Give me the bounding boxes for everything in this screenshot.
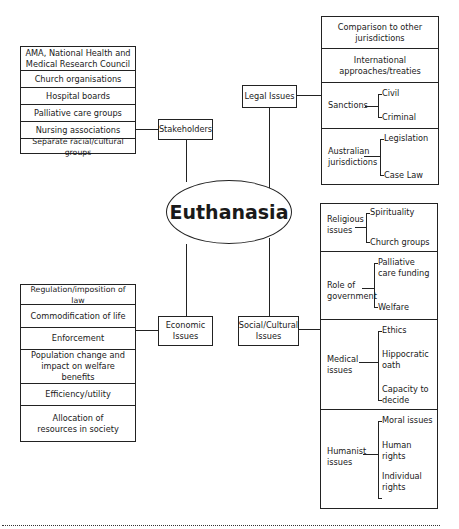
connector [299, 329, 321, 330]
legal-item: International approaches/treaties [322, 49, 438, 83]
economic-item: Allocation of resources in society [21, 406, 135, 441]
connector [136, 129, 158, 130]
center-topic-euthanasia: Euthanasia [166, 180, 292, 244]
legal-issues-list: Comparison to other jurisdictions Intern… [321, 16, 439, 185]
leaf-label: Moral issues [382, 415, 433, 426]
stakeholders-node: Stakeholders [158, 119, 213, 140]
leaf-label: Welfare [378, 302, 409, 313]
stakeholder-item: Separate racial/cultural groups [21, 139, 135, 155]
legal-item-sanctions: Sanctions Civil Criminal [322, 83, 438, 129]
stakeholder-item: AMA, National Health and Medical Researc… [21, 47, 135, 71]
connector [186, 140, 187, 182]
branch-label: Humanist issues [327, 446, 363, 468]
branch-label: Sanctions [328, 100, 368, 111]
branch-label: Australian jurisdictions [328, 146, 376, 168]
legal-issues-node: Legal Issues [242, 85, 297, 108]
leaf-label: Individual rights [382, 471, 422, 493]
stakeholder-item: Church organisations [21, 71, 135, 88]
branch-label: Religious issues [327, 214, 361, 236]
social-item-humanist: Humanist issues Moral issues Human right… [321, 410, 437, 508]
connector [269, 238, 270, 316]
leaf-label: Hippocratic oath [382, 349, 432, 371]
economic-item: Commodification of life [21, 305, 135, 328]
economic-item: Enforcement [21, 328, 135, 350]
economic-item: Regulation/imposition of law [21, 285, 135, 305]
stakeholder-item: Palliative care groups [21, 105, 135, 122]
social-cultural-issues-node: Social/Cultural Issues [238, 316, 299, 346]
leaf-label: Civil [382, 88, 399, 99]
leaf-label: Ethics [382, 325, 407, 336]
leaf-label: Church groups [370, 237, 430, 248]
connector [136, 330, 158, 331]
economic-issues-node: Economic Issues [158, 316, 213, 346]
legal-item-australian: Australian jurisdictions Legislation Cas… [322, 129, 438, 184]
branch-label: Medical issues [327, 354, 359, 376]
leaf-label: Legislation [384, 133, 428, 144]
legal-item: Comparison to other jurisdictions [322, 17, 438, 49]
stakeholder-item: Hospital boards [21, 88, 135, 105]
leaf-label: Case Law [384, 170, 423, 181]
dotted-divider [2, 525, 440, 526]
connector [269, 108, 270, 188]
economic-issues-list: Regulation/imposition of law Commodifica… [20, 284, 136, 442]
economic-item: Efficiency/utility [21, 384, 135, 406]
social-item-medical: Medical issues Ethics Hippocratic oath C… [321, 320, 437, 410]
leaf-label: Capacity to decide [382, 384, 432, 406]
branch-label: Role of government [327, 280, 373, 302]
economic-item: Population change and impact on welfare … [21, 350, 135, 384]
leaf-label: Spirituality [370, 207, 414, 218]
social-item-government: Role of government Palliative care fundi… [321, 252, 437, 320]
leaf-label: Palliative care funding [378, 257, 432, 279]
social-cultural-issues-list: Religious issues Spirituality Church gro… [320, 203, 438, 509]
connector [186, 244, 187, 316]
connector [297, 95, 321, 96]
leaf-label: Criminal [382, 112, 416, 123]
stakeholders-list: AMA, National Health and Medical Researc… [20, 46, 136, 154]
social-item-religious: Religious issues Spirituality Church gro… [321, 204, 437, 252]
leaf-label: Human rights [382, 440, 418, 462]
